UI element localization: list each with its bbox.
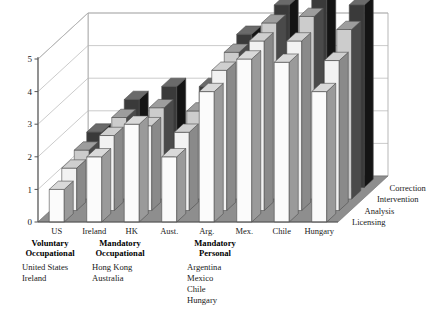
legend-group-heading-1: Mandatory [99, 238, 141, 248]
bar-Aust-licensing [162, 149, 186, 222]
legend-group-item: Hong Kong [92, 262, 133, 272]
legend-group-heading-2: Occupational [95, 248, 145, 258]
legend-group-heading-2: Personal [199, 248, 232, 258]
chart-3d-bar: 012345USIrelandHKAust.Arg.Mex.ChileHunga… [0, 0, 436, 314]
legend-group-item: United States [22, 262, 69, 272]
bar-Hungary-licensing [312, 83, 336, 222]
bar-side-face [264, 33, 273, 211]
legend-group-heading-1: Mandatory [194, 238, 236, 248]
bar-side-face [114, 127, 123, 210]
chart-canvas: 012345USIrelandHKAust.Arg.Mex.ChileHunga… [0, 0, 436, 314]
y-axis-tick-label: 5 [28, 54, 33, 64]
y-axis-tick-label: 4 [28, 87, 33, 97]
bar-side-face [152, 117, 161, 210]
x-axis-label-Mex: Mex. [235, 226, 253, 236]
depth-axis-label-analysis: Analysis [365, 206, 395, 216]
bar-front-face [49, 189, 64, 222]
bar-side-face [327, 83, 336, 222]
bar-side-face [364, 0, 373, 187]
y-axis-tick-label: 1 [28, 185, 33, 195]
legend-group-item: Argentina [187, 262, 221, 272]
x-axis-label-US: US [51, 226, 62, 236]
bar-side-face [139, 116, 148, 222]
bar-front-face [162, 157, 177, 222]
y-axis-tick-label: 2 [28, 152, 33, 162]
bar-Ireland-licensing [87, 149, 111, 222]
x-axis-label-Ireland: Ireland [82, 226, 107, 236]
bar-side-face [302, 33, 311, 211]
bar-HK-licensing [124, 116, 148, 222]
x-axis-label-Aust: Aust. [160, 226, 178, 236]
bar-front-face [274, 62, 289, 222]
legend-group-heading-2: Occupational [25, 248, 75, 258]
x-axis-label-Chile: Chile [273, 226, 292, 236]
legend-group-item: Chile [187, 284, 206, 294]
bar-side-face [177, 149, 186, 222]
legend-group-item: Hungary [187, 295, 218, 305]
bar-side-face [252, 51, 261, 222]
bar-side-face [339, 52, 348, 210]
legend-group-heading-1: Voluntary [32, 238, 70, 248]
legend-group-item: Mexico [187, 273, 213, 283]
bar-side-face [189, 124, 198, 211]
bar-front-face [199, 92, 214, 222]
bar-side-face [214, 83, 223, 222]
bar-side-face [77, 160, 86, 211]
bar-side-face [227, 62, 236, 210]
depth-axis-label-licensing: Licensing [352, 217, 386, 227]
depth-axis-label-intervention: Intervention [377, 194, 419, 204]
bar-US-licensing [49, 181, 73, 222]
x-axis-label-Arg: Arg. [199, 226, 214, 236]
x-axis-label-HK: HK [126, 226, 139, 236]
bar-front-face [312, 92, 327, 222]
x-axis-label-Hungary: Hungary [304, 226, 334, 236]
bar-front-face [124, 124, 139, 222]
bar-side-face [102, 149, 111, 222]
legend-group-item: Australia [92, 273, 124, 283]
bar-front-face [87, 157, 102, 222]
bar-side-face [289, 54, 298, 222]
y-axis-tick-label: 0 [28, 217, 33, 227]
bar-front-face [237, 59, 252, 222]
bar-Mex-licensing [237, 51, 261, 222]
bar-Arg-licensing [199, 83, 223, 222]
legend-group-item: Ireland [22, 273, 47, 283]
bar-Chile-licensing [274, 54, 298, 222]
y-axis-tick-label: 3 [28, 119, 33, 129]
depth-axis-label-correction: Correction [390, 183, 427, 193]
bar-side-face [352, 21, 361, 199]
